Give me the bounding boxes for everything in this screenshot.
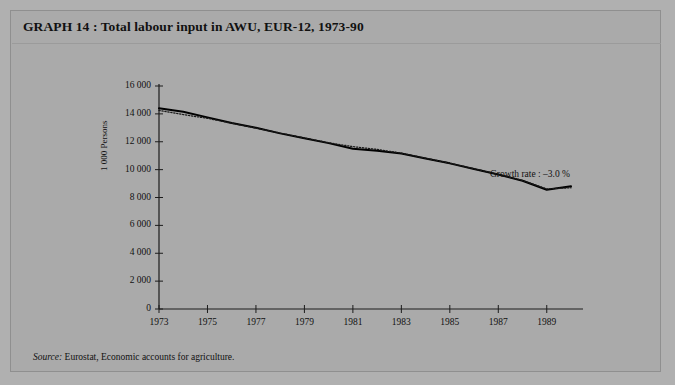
x-tick-label: 1985: [430, 317, 470, 327]
x-tick-label: 1983: [381, 317, 421, 327]
y-tick-label: 8 000: [105, 192, 151, 202]
x-tick-label: 1975: [187, 317, 227, 327]
x-tick-label: 1989: [527, 317, 567, 327]
source-text: Eurostat, Economic accounts for agricult…: [62, 352, 234, 362]
source-label: Source:: [33, 352, 62, 362]
figure-panel: GRAPH 14 : Total labour input in AWU, EU…: [10, 10, 661, 372]
y-tick-label: 6 000: [105, 219, 151, 229]
y-tick-label: 0: [105, 303, 151, 313]
y-tick-label: 16 000: [105, 80, 151, 90]
screenshot-root: GRAPH 14 : Total labour input in AWU, EU…: [0, 0, 675, 385]
growth-rate-annotation: Growth rate : –3.0 %: [490, 169, 570, 179]
x-tick-label: 1981: [333, 317, 373, 327]
x-tick-label: 1979: [284, 317, 324, 327]
y-tick-label: 4 000: [105, 247, 151, 257]
x-tick-label: 1977: [236, 317, 276, 327]
source-note: Source: Eurostat, Economic accounts for …: [33, 352, 234, 362]
y-tick-label: 12 000: [105, 136, 151, 146]
y-tick-label: 10 000: [105, 164, 151, 174]
y-tick-label: 2 000: [105, 275, 151, 285]
y-tick-label: 14 000: [105, 108, 151, 118]
x-tick-label: 1973: [139, 317, 179, 327]
x-tick-label: 1987: [478, 317, 518, 327]
